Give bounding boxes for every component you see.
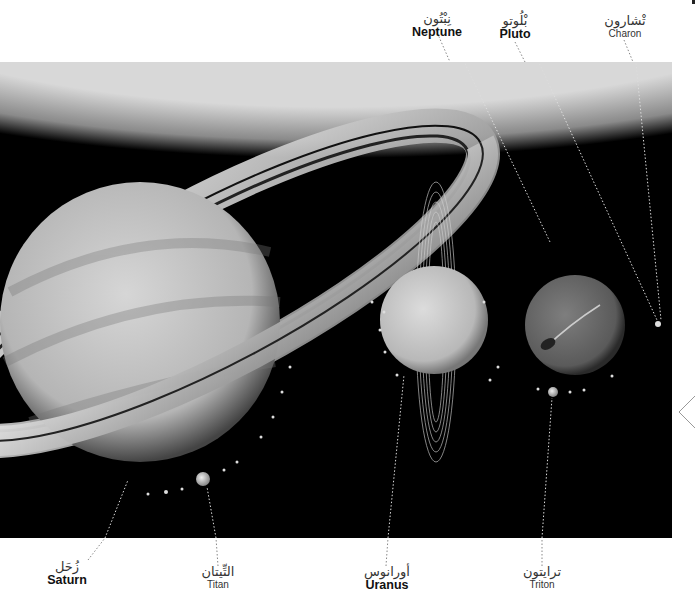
label-neptune-arabic: نِبْتُون [397,12,477,26]
label-titan-arabic: التِّيتان [183,565,253,579]
label-titan-english: Titan [183,579,253,590]
label-charon-english: Charon [590,28,660,39]
label-saturn-arabic: زُحَل [32,560,102,574]
label-uranus-arabic: أورانوس [352,565,422,579]
label-charon: تْشارون Charon [590,14,660,39]
label-saturn-english: Saturn [32,574,102,588]
label-uranus: أورانوس Uranus [352,565,422,593]
label-charon-arabic: تْشارون [590,14,660,28]
label-triton: ترايتون Triton [507,565,577,590]
solar-system-illustration [0,62,672,538]
chevron-left-icon [676,392,695,432]
previous-button[interactable] [676,392,695,432]
planets-artwork [0,62,672,538]
label-pluto: بْلُوتو Pluto [480,14,550,42]
label-saturn: زُحَل Saturn [32,560,102,588]
label-triton-arabic: ترايتون [507,565,577,579]
label-titan: التِّيتان Titan [183,565,253,590]
label-triton-english: Triton [507,579,577,590]
label-pluto-english: Pluto [480,28,550,42]
label-neptune-english: Neptune [397,26,477,40]
label-pluto-arabic: بْلُوتو [480,14,550,28]
label-uranus-english: Uranus [352,579,422,593]
label-neptune: نِبْتُون Neptune [397,12,477,40]
